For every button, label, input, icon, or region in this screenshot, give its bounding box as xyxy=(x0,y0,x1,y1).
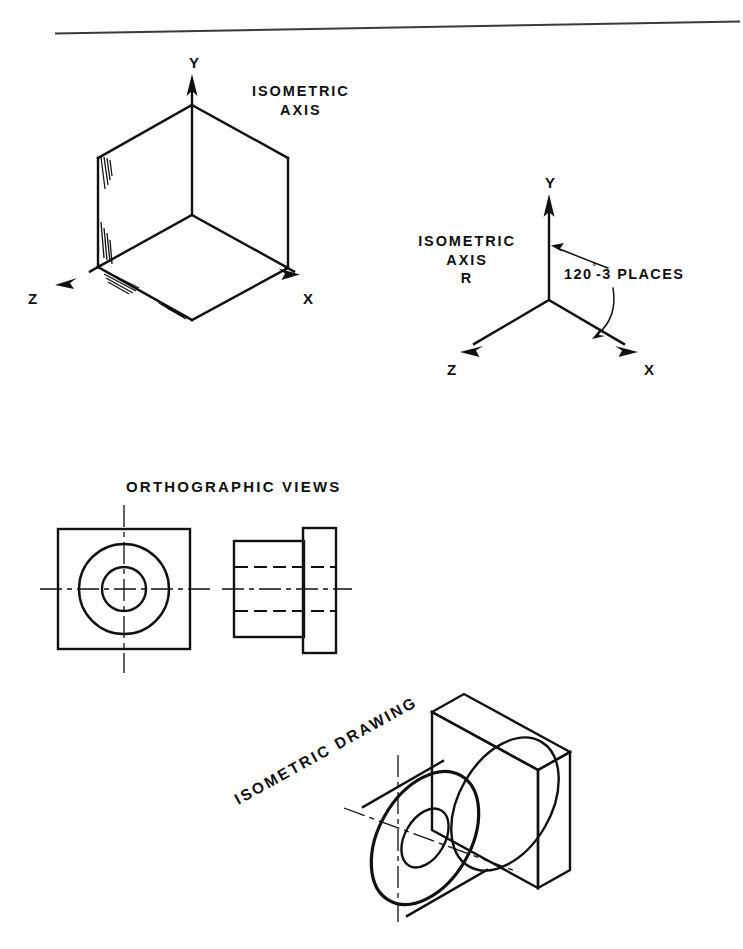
drawing-sheet: ISOMETRIC AXIS Y X Z ISOMETRIC AXIS R 12… xyxy=(0,0,743,949)
axisr-axis-label-x: X xyxy=(644,360,655,379)
cube-shading-hatch-bottom-front xyxy=(156,300,188,319)
isometric-cube-heading-line2: AXIS xyxy=(252,101,350,120)
axisr-z-line xyxy=(474,300,549,344)
boss-silhouette-lower xyxy=(407,870,487,916)
isometric-axis-r-heading: ISOMETRIC AXIS R xyxy=(409,232,525,288)
axisr-z-arrowhead xyxy=(460,346,483,357)
axisr-axis-label-y: Y xyxy=(545,173,556,192)
angle-note-suffix: -3 PLACES xyxy=(596,266,684,282)
orthographic-views-heading: ORTHOGRAPHIC VIEWS xyxy=(126,477,341,496)
isometric-axis-r-heading-line2: AXIS xyxy=(409,251,525,270)
cube-axis-label-z: Z xyxy=(28,289,38,308)
cube-edge-top-left xyxy=(98,105,192,158)
orthographic-views-figure xyxy=(40,505,352,673)
plate-top-face xyxy=(432,694,570,770)
cube-shading-hatch-upper xyxy=(101,157,112,189)
cube-z-arrowhead xyxy=(55,278,77,289)
cube-axis-label-y: Y xyxy=(189,53,200,72)
plate-right-face xyxy=(538,752,570,888)
isometric-cube-heading: ISOMETRIC AXIS xyxy=(252,82,350,119)
cube-x-axis-line xyxy=(192,215,288,268)
angle-leader-lower xyxy=(598,288,614,334)
axisr-axis-label-z: Z xyxy=(447,360,457,379)
isometric-axis-r-heading-line3: R xyxy=(409,269,525,288)
drawing-canvas xyxy=(0,0,743,949)
angle-note-value: 120 xyxy=(564,266,592,282)
isometric-axis-r-heading-line1: ISOMETRIC xyxy=(409,232,525,251)
axisr-x-arrowhead xyxy=(615,346,638,357)
cube-shading-hatch-lower xyxy=(101,222,112,264)
cube-axis-label-x: X xyxy=(303,289,314,308)
cube-edge-bottom-right xyxy=(192,268,288,320)
side-view-flange-plate xyxy=(303,528,336,653)
angle-note: 120°-3 PLACES xyxy=(564,261,684,284)
horizontal-rule xyxy=(55,22,740,34)
isometric-cube-heading-line1: ISOMETRIC xyxy=(252,82,350,101)
